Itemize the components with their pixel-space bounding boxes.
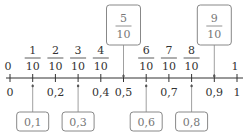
answer-box-bottom[interactable]: 0,8	[176, 112, 208, 131]
svg-text:10: 10	[117, 28, 131, 41]
arrow-dot	[77, 85, 79, 87]
top-label: 410	[93, 44, 109, 73]
svg-text:7: 7	[165, 44, 172, 57]
svg-text:0: 0	[5, 60, 12, 73]
arrow-dot	[32, 85, 34, 87]
bottom-label: 0,5	[115, 86, 133, 99]
svg-text:1: 1	[29, 44, 36, 57]
top-label: 110	[25, 44, 41, 73]
svg-text:10: 10	[48, 60, 62, 73]
arrow-dot	[145, 85, 147, 87]
top-label: 610	[138, 44, 154, 73]
top-label: 1	[232, 60, 239, 73]
svg-text:10: 10	[71, 60, 85, 73]
svg-text:1: 1	[232, 60, 239, 73]
top-label: 0	[5, 60, 12, 73]
arrow-dot	[122, 75, 124, 77]
svg-text:10: 10	[207, 28, 221, 41]
svg-text:8: 8	[188, 44, 195, 57]
top-label: 710	[161, 44, 177, 73]
svg-text:0,3: 0,3	[69, 116, 87, 129]
bottom-label: 0,7	[160, 86, 178, 99]
svg-text:6: 6	[143, 44, 150, 57]
svg-text:10: 10	[162, 60, 176, 73]
answer-box-bottom[interactable]: 0,3	[62, 112, 94, 131]
top-label: 310	[70, 44, 86, 73]
svg-text:0,6: 0,6	[137, 116, 155, 129]
top-label: 210	[47, 44, 63, 73]
answer-box-bottom[interactable]: 0,6	[130, 112, 162, 131]
svg-text:2: 2	[52, 44, 59, 57]
answer-box-top[interactable]: 910	[197, 5, 231, 45]
arrow-dot	[190, 85, 192, 87]
arrow-dot	[213, 75, 215, 77]
top-label: 810	[184, 44, 200, 73]
bottom-label: 1	[234, 86, 241, 99]
svg-text:5: 5	[120, 12, 127, 25]
bottom-label: 0	[7, 86, 14, 99]
svg-text:10: 10	[185, 60, 199, 73]
bottom-label: 0,9	[206, 86, 224, 99]
answer-box-bottom[interactable]: 0,1	[17, 112, 49, 131]
answer-box-top[interactable]: 510	[107, 5, 141, 45]
svg-text:10: 10	[94, 60, 108, 73]
svg-text:10: 10	[26, 60, 40, 73]
svg-text:10: 10	[139, 60, 153, 73]
number-line-diagram: 0110210310410610710810100,20,40,50,70,91…	[0, 0, 247, 135]
svg-text:9: 9	[211, 12, 218, 25]
svg-text:4: 4	[97, 44, 104, 57]
bottom-label: 0,4	[92, 86, 110, 99]
bottom-label: 0,2	[47, 86, 65, 99]
svg-text:3: 3	[75, 44, 82, 57]
svg-text:0,1: 0,1	[24, 116, 42, 129]
svg-text:0,8: 0,8	[183, 116, 201, 129]
